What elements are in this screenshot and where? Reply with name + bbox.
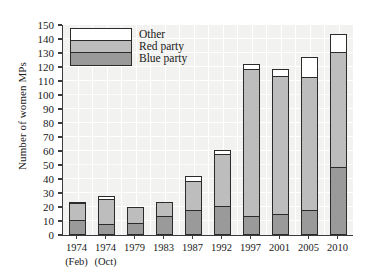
y-tick-label: 130 (20, 48, 54, 58)
bar-segment-red[interactable] (69, 203, 86, 221)
bar-segment-blue[interactable] (272, 214, 289, 235)
x-tick-mark (337, 235, 338, 239)
bar-segment-other[interactable] (69, 202, 86, 205)
y-tick-label: 70 (20, 132, 54, 142)
bar-segment-red[interactable] (214, 154, 231, 207)
bar-segment-blue[interactable] (185, 210, 202, 235)
legend-swatch-blue (71, 53, 131, 65)
legend-label-blue: Blue party (139, 52, 187, 64)
y-tick-label: 50 (20, 160, 54, 170)
bar-1992[interactable] (214, 151, 231, 235)
legend-label-red: Red party (139, 40, 187, 52)
x-tick-mark (76, 235, 77, 239)
bar-1987[interactable] (185, 178, 202, 235)
bar-segment-blue[interactable] (127, 223, 144, 236)
x-tick-mark (134, 235, 135, 239)
y-tick-label: 40 (20, 174, 54, 184)
y-tick-label: 90 (20, 104, 54, 114)
x-tick-mark (163, 235, 164, 239)
x-tick-mark (221, 235, 222, 239)
bar-2010[interactable] (330, 35, 347, 235)
x-tick-mark (308, 235, 309, 239)
bar-1974-oct-[interactable] (98, 197, 115, 235)
bar-segment-red[interactable] (98, 199, 115, 226)
bar-segment-red[interactable] (127, 207, 144, 224)
y-tick-label: 20 (20, 202, 54, 212)
bar-segment-blue[interactable] (156, 216, 173, 236)
y-tick-label: 80 (20, 118, 54, 128)
bar-segment-blue[interactable] (98, 224, 115, 235)
bar-segment-blue[interactable] (69, 220, 86, 235)
y-tick-label: 60 (20, 146, 54, 156)
bar-segment-blue[interactable] (243, 216, 260, 236)
bar-segment-blue[interactable] (214, 206, 231, 235)
bar-segment-red[interactable] (156, 202, 173, 217)
y-tick-label: 140 (20, 34, 54, 44)
y-tick-label: 10 (20, 216, 54, 226)
legend-swatch-red (71, 41, 131, 53)
bar-2001[interactable] (272, 70, 289, 235)
bar-segment-other[interactable] (301, 57, 318, 78)
bar-segment-red[interactable] (243, 69, 260, 217)
legend-label-other: Other (139, 28, 187, 40)
bar-segment-red[interactable] (185, 181, 202, 212)
legend: OtherRed partyBlue party (70, 28, 187, 66)
bar-segment-red[interactable] (272, 76, 289, 216)
y-tick-label: 0 (20, 230, 54, 240)
bar-segment-other[interactable] (243, 64, 260, 70)
x-tick-label-month: (Oct) (83, 256, 129, 268)
legend-labels: OtherRed partyBlue party (139, 28, 187, 65)
bar-segment-other[interactable] (98, 196, 115, 200)
bar-1974-feb-[interactable] (69, 203, 86, 235)
bar-segment-red[interactable] (301, 77, 318, 211)
x-tick-mark (192, 235, 193, 239)
y-tick-label: 150 (20, 20, 54, 30)
x-tick-mark (250, 235, 251, 239)
bar-segment-other[interactable] (214, 150, 231, 156)
bar-segment-other[interactable] (185, 176, 202, 182)
legend-swatches (70, 28, 132, 66)
bar-segment-blue[interactable] (301, 210, 318, 235)
y-tick-label: 30 (20, 188, 54, 198)
x-tick-label-year: 2010 (315, 242, 361, 254)
x-tick-mark (105, 235, 106, 239)
y-tick-label: 110 (20, 76, 54, 86)
bar-segment-blue[interactable] (330, 167, 347, 236)
bar-2005[interactable] (301, 59, 318, 235)
bar-1997[interactable] (243, 66, 260, 235)
bar-segment-other[interactable] (272, 69, 289, 77)
bar-1983[interactable] (156, 203, 173, 235)
x-tick-mark (279, 235, 280, 239)
chart-figure: Number of women MPs 01020304050607080901… (0, 0, 372, 275)
bar-segment-other[interactable] (330, 34, 347, 54)
bar-segment-red[interactable] (330, 52, 347, 168)
y-tick-label: 100 (20, 90, 54, 100)
legend-swatch-other (71, 29, 131, 41)
y-tick-label: 120 (20, 62, 54, 72)
bar-1979[interactable] (127, 208, 144, 235)
